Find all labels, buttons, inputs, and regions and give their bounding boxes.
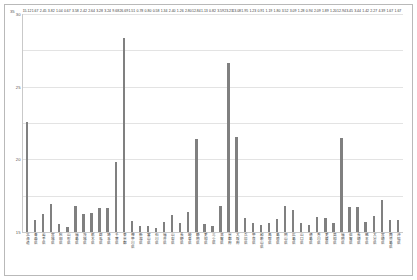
bar[interactable]: 9.68 [115, 162, 117, 232]
bar-item[interactable]: 15.12 [23, 14, 31, 232]
bar-item[interactable]: 1.26 [176, 14, 184, 232]
bar-item[interactable]: 1.20 [329, 14, 337, 232]
bar-item[interactable]: 1.67 [386, 14, 394, 232]
bar[interactable]: 3.24 [106, 208, 108, 232]
bar[interactable]: 26.69 [123, 38, 125, 232]
bar-item[interactable]: 12.94 [337, 14, 345, 232]
bar-item[interactable]: 0.78 [136, 14, 144, 232]
bar[interactable]: 1.19 [268, 223, 270, 232]
bar-item[interactable]: 3.44 [354, 14, 362, 232]
bar-item[interactable]: 12.84 [192, 14, 200, 232]
bar-value-label: 2.42 [80, 10, 87, 14]
bar-item[interactable]: 1.42 [362, 14, 370, 232]
bar[interactable]: 2.64 [90, 213, 92, 232]
bar[interactable]: 3.44 [356, 207, 358, 232]
bar[interactable]: 1.42 [364, 222, 366, 232]
bar[interactable]: 12.94 [340, 138, 342, 232]
bar[interactable]: 2.45 [42, 214, 44, 232]
bar[interactable]: 1.23 [252, 223, 254, 232]
bar[interactable]: 4.39 [381, 200, 383, 232]
x-axis-tick: 岐阜県 [184, 233, 192, 275]
bar[interactable]: 1.95 [244, 218, 246, 232]
bar[interactable]: 3.58 [74, 206, 76, 232]
bar-item[interactable]: 2.40 [168, 14, 176, 232]
bar-item[interactable]: 1.67 [394, 14, 402, 232]
bar-item[interactable]: 13.08 [233, 14, 241, 232]
bar-item[interactable]: 9.68 [112, 14, 120, 232]
x-axis-tick-label: 富山県 [146, 233, 150, 275]
bar-item[interactable]: 0.82 [208, 14, 216, 232]
x-axis-tick: 広島県 [289, 233, 297, 275]
bar-item[interactable]: 1.67 [31, 14, 39, 232]
bar[interactable]: 3.09 [292, 210, 294, 232]
bar-item[interactable]: 2.45 [39, 14, 47, 232]
bar-item[interactable]: 3.45 [346, 14, 354, 232]
bar[interactable]: 1.20 [332, 223, 334, 232]
x-axis-tick-label: 鳥取県 [267, 233, 271, 275]
bar[interactable]: 1.26 [179, 223, 181, 232]
bar-item[interactable]: 0.80 [144, 14, 152, 232]
bar[interactable]: 2.80 [187, 212, 189, 232]
bar-value-label: 3.59 [217, 10, 224, 14]
bar[interactable]: 3.52 [284, 206, 286, 232]
bar-item[interactable]: 1.95 [241, 14, 249, 232]
bar[interactable]: 3.28 [98, 208, 100, 232]
bar[interactable]: 1.67 [389, 220, 391, 232]
bar-item[interactable]: 3.58 [71, 14, 79, 232]
bar-item[interactable]: 1.13 [200, 14, 208, 232]
bar[interactable]: 1.13 [203, 224, 205, 232]
bar[interactable]: 1.67 [397, 220, 399, 232]
bar-item[interactable]: 4.39 [378, 14, 386, 232]
bar-item[interactable]: 26.69 [120, 14, 128, 232]
bar[interactable]: 2.40 [171, 215, 173, 232]
bar-item[interactable]: 1.80 [273, 14, 281, 232]
bar[interactable]: 3.45 [348, 207, 350, 232]
bar[interactable]: 1.67 [34, 220, 36, 232]
bar-item[interactable]: 2.64 [88, 14, 96, 232]
bar[interactable]: 1.34 [163, 222, 165, 232]
bar[interactable]: 0.91 [260, 225, 262, 232]
bar-item[interactable]: 1.19 [265, 14, 273, 232]
bar-item[interactable]: 3.09 [289, 14, 297, 232]
bar[interactable]: 13.08 [235, 137, 237, 232]
bar[interactable]: 15.12 [26, 122, 28, 232]
bar[interactable]: 23.23 [227, 63, 229, 232]
bar-item[interactable]: 3.24 [104, 14, 112, 232]
bar-item[interactable]: 0.94 [305, 14, 313, 232]
y-axis-tick-label: 15 [16, 230, 21, 235]
bar-item[interactable]: 1.34 [160, 14, 168, 232]
bar-item[interactable]: 2.80 [184, 14, 192, 232]
bar[interactable]: 2.42 [82, 214, 84, 232]
bar-value-label: 1.04 [56, 10, 63, 14]
bar-item[interactable]: 1.51 [128, 14, 136, 232]
bar-item[interactable]: 23.23 [225, 14, 233, 232]
bar[interactable]: 2.09 [316, 217, 318, 232]
bar-item[interactable]: 2.27 [370, 14, 378, 232]
bar-item[interactable]: 1.28 [297, 14, 305, 232]
bar-item[interactable]: 2.09 [313, 14, 321, 232]
x-axis-tick: 滋賀県 [217, 233, 225, 275]
bar-item[interactable]: 1.89 [321, 14, 329, 232]
bar[interactable]: 1.28 [300, 223, 302, 232]
bar[interactable]: 3.82 [50, 204, 52, 232]
bar-item[interactable]: 0.67 [63, 14, 71, 232]
x-axis-tick: 宮崎県 [378, 233, 386, 275]
bar[interactable]: 1.89 [324, 218, 326, 232]
bar[interactable]: 3.59 [219, 206, 221, 232]
bar-item[interactable]: 3.59 [217, 14, 225, 232]
bar[interactable]: 2.27 [373, 216, 375, 232]
bar-item[interactable]: 0.91 [257, 14, 265, 232]
bar[interactable]: 1.51 [131, 221, 133, 232]
bar-item[interactable]: 2.42 [79, 14, 87, 232]
bar-item[interactable]: 0.58 [152, 14, 160, 232]
bar-item[interactable]: 1.04 [55, 14, 63, 232]
bar[interactable]: 1.04 [58, 224, 60, 232]
bar[interactable]: 12.84 [195, 139, 197, 232]
bar[interactable]: 0.94 [308, 225, 310, 232]
bar-item[interactable]: 1.23 [249, 14, 257, 232]
bar-item[interactable]: 3.28 [96, 14, 104, 232]
bar[interactable]: 1.80 [276, 219, 278, 232]
bar-value-label: 0.91 [257, 10, 264, 14]
bar-item[interactable]: 3.82 [47, 14, 55, 232]
bar-item[interactable]: 3.52 [281, 14, 289, 232]
